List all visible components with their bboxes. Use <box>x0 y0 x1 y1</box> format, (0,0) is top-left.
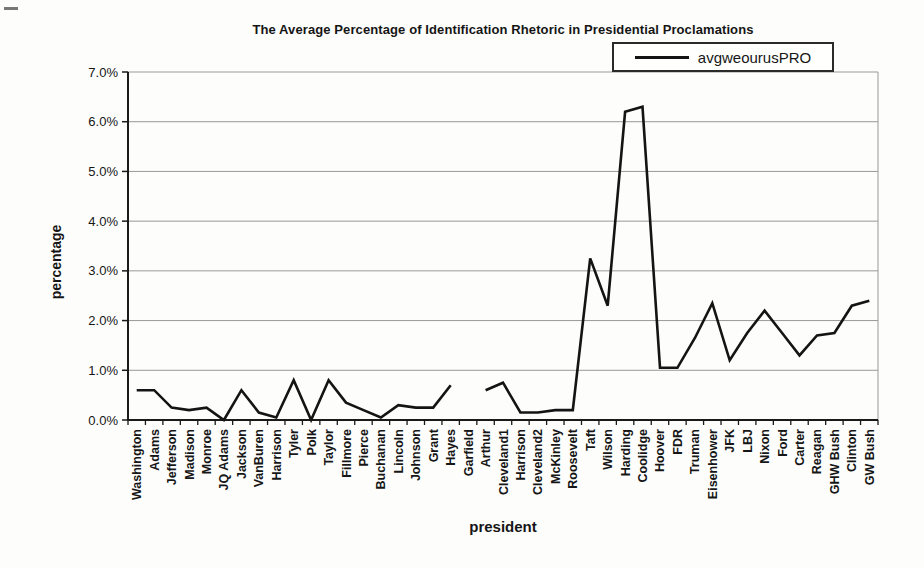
x-category-label: Cleveland2 <box>531 429 545 495</box>
legend-series-label: avgweourusPRO <box>698 49 811 66</box>
x-axis-title: president <box>128 518 878 535</box>
x-category-label: Taft <box>584 428 598 451</box>
x-category-label: Coolidge <box>636 429 650 483</box>
y-axis-title: percentage <box>48 200 64 324</box>
x-category-label: Hayes <box>444 429 458 466</box>
x-category-label: Cleveland1 <box>497 429 511 495</box>
chart-page: The Average Percentage of Identification… <box>0 0 924 568</box>
x-category-label: GW Bush <box>863 429 877 485</box>
x-category-label: Adams <box>148 429 162 471</box>
x-category-label: FDR <box>671 429 685 455</box>
x-category-label: Pierce <box>357 429 371 467</box>
x-category-label: Roosevelt <box>566 428 580 489</box>
x-category-label: Nixon <box>758 429 772 464</box>
x-category-label: Harrison <box>514 429 528 480</box>
y-tick-label: 2.0% <box>88 313 118 328</box>
x-category-label: VanBuren <box>252 429 266 487</box>
y-tick-label: 6.0% <box>88 114 118 129</box>
x-category-label: Ford <box>776 429 790 457</box>
x-category-label: Carter <box>793 429 807 466</box>
x-category-label: Buchanan <box>374 429 388 489</box>
x-category-label: McKinley <box>549 429 563 484</box>
x-category-label: Garfield <box>462 429 476 476</box>
x-category-label: Harding <box>619 429 633 476</box>
x-category-label: Eisenhower <box>706 429 720 499</box>
x-category-label: Fillmore <box>340 429 354 478</box>
plot-area: 0.0%1.0%2.0%3.0%4.0%5.0%6.0%7.0%Washingt… <box>0 0 924 568</box>
x-category-label: Clinton <box>845 429 859 472</box>
x-category-label: Harrison <box>270 429 284 480</box>
data-line-avgweourusPRO <box>137 107 870 420</box>
x-category-label: Hoover <box>653 429 667 472</box>
y-tick-label: 7.0% <box>88 65 118 80</box>
x-category-label: Madison <box>183 429 197 480</box>
legend-line-sample <box>635 56 689 59</box>
x-category-label: Washington <box>130 429 144 500</box>
x-category-label: Truman <box>688 429 702 474</box>
y-tick-label: 5.0% <box>88 164 118 179</box>
x-category-label: Polk <box>305 429 319 455</box>
y-tick-label: 4.0% <box>88 214 118 229</box>
x-category-label: Jackson <box>235 429 249 479</box>
x-category-label: Johnson <box>409 429 423 481</box>
x-category-label: Tyler <box>287 429 301 458</box>
legend: avgweourusPRO <box>612 42 834 72</box>
x-category-label: Taylor <box>322 429 336 466</box>
x-category-label: Grant <box>427 428 441 462</box>
y-tick-label: 1.0% <box>88 363 118 378</box>
x-category-label: JFK <box>723 429 737 453</box>
x-category-label: Wilson <box>601 429 615 470</box>
x-category-label: Reagan <box>810 429 824 474</box>
y-tick-label: 3.0% <box>88 263 118 278</box>
x-category-label: Monroe <box>200 429 214 474</box>
x-category-label: Lincoln <box>392 429 406 473</box>
x-category-label: Jefferson <box>165 429 179 485</box>
x-category-label: LBJ <box>741 429 755 453</box>
x-category-label: GHW Bush <box>828 429 842 494</box>
x-category-label: Arthur <box>479 429 493 467</box>
x-category-label: JQ Adams <box>217 429 231 490</box>
y-tick-label: 0.0% <box>88 413 118 428</box>
